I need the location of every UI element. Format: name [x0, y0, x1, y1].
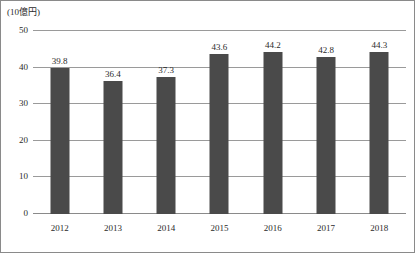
- x-axis-tick-label: 2016: [264, 223, 282, 233]
- bars-group: 39.8201236.4201337.3201443.6201544.22016…: [33, 31, 406, 214]
- bar-value-label: 44.3: [371, 40, 387, 50]
- y-axis-tick-label: 50: [19, 26, 28, 35]
- x-axis-tick-label: 2017: [317, 223, 335, 233]
- bar-group: 37.32014: [140, 31, 193, 214]
- bar-group: 44.32018: [353, 31, 406, 214]
- y-axis-tick-label: 30: [19, 99, 28, 108]
- x-axis-tick-label: 2015: [210, 223, 228, 233]
- y-axis-tick-label: 0: [24, 209, 29, 218]
- bar-group: 39.82012: [33, 31, 86, 214]
- bar[interactable]: [157, 77, 176, 214]
- bar-value-label: 43.6: [212, 42, 228, 52]
- bar-group: 44.22016: [246, 31, 299, 214]
- plot-area: 01020304050 39.8201236.4201337.3201443.6…: [33, 31, 406, 214]
- bar-group: 43.62015: [193, 31, 246, 214]
- bar-value-label: 44.2: [265, 40, 281, 50]
- y-axis-tick-label: 40: [19, 62, 28, 71]
- bar-value-label: 36.4: [105, 69, 121, 79]
- bar[interactable]: [263, 52, 282, 214]
- bar-group: 42.82017: [299, 31, 352, 214]
- y-axis-unit-label: (10億円): [7, 7, 40, 18]
- bar-value-label: 42.8: [318, 45, 334, 55]
- x-axis-tick-label: 2014: [157, 223, 175, 233]
- x-axis-tick-label: 2013: [104, 223, 122, 233]
- bar[interactable]: [370, 52, 389, 214]
- x-axis-tick-label: 2018: [370, 223, 388, 233]
- bar-group: 36.42013: [86, 31, 139, 214]
- bar[interactable]: [50, 68, 69, 214]
- y-axis-tick-label: 10: [19, 172, 28, 181]
- x-axis-tick-label: 2012: [51, 223, 69, 233]
- chart-frame: (10億円) 01020304050 39.8201236.4201337.32…: [0, 0, 415, 253]
- bar[interactable]: [103, 81, 122, 214]
- y-axis-tick-label: 20: [19, 135, 28, 144]
- bar[interactable]: [210, 54, 229, 214]
- bar[interactable]: [317, 57, 336, 214]
- bar-value-label: 39.8: [52, 56, 68, 66]
- bar-value-label: 37.3: [158, 65, 174, 75]
